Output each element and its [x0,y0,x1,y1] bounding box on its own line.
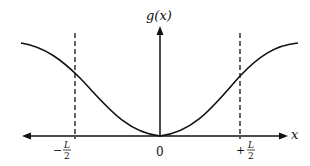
y-axis-arrow-icon [157,26,164,35]
y-axis-label: g(x) [146,8,172,23]
svg-text:L: L [247,140,254,150]
svg-text:+: + [236,144,245,157]
svg-text:2: 2 [64,151,70,161]
x-axis-label: x [291,127,299,142]
svg-text:2: 2 [248,151,254,161]
svg-text:−: − [53,144,62,157]
tick-label-plus-half-L: + L 2 [236,140,255,161]
tick-label-minus-half-L: − L 2 [53,140,71,161]
x-axis-right-arrow-icon [279,133,288,140]
x-axis-left-arrow-icon [22,133,31,140]
svg-text:L: L [63,140,70,150]
function-diagram: g(x) x 0 − L 2 + L 2 [0,0,310,166]
origin-label: 0 [156,145,164,159]
